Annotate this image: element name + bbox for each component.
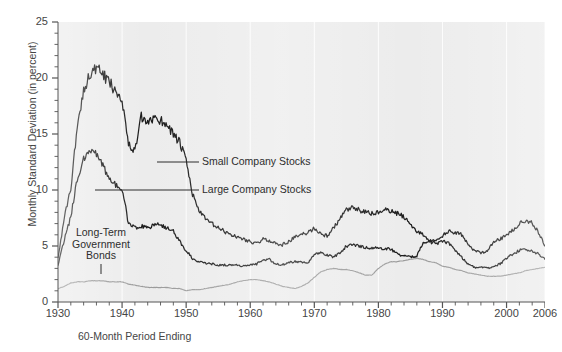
x-tick-label: 2006 [520,308,562,319]
x-tick-label: 1930 [33,308,83,319]
annotation-bonds-line-1: Long-Term [56,227,146,239]
y-tick-label: 10 [24,184,48,195]
y-tick-label: 20 [24,72,48,83]
x-tick-label: 1960 [225,308,275,319]
x-tick-label: 1980 [353,308,403,319]
x-tick-label: 1990 [417,308,467,319]
x-tick-label: 1940 [97,308,147,319]
y-tick-label: 0 [24,296,48,307]
annotation-long-term-government-bonds: Long-Term Government Bonds [56,227,146,262]
annotation-bonds-line-3: Bonds [56,250,146,262]
annotation-small-company-stocks: Small Company Stocks [202,156,311,168]
annotation-large-company-stocks: Large Company Stocks [202,184,311,196]
y-tick-label: 25 [24,16,48,27]
x-axis-title: 60-Month Period Ending [78,330,191,342]
x-tick-label: 1950 [161,308,211,319]
x-tick-label: 1970 [289,308,339,319]
y-tick-label: 15 [24,128,48,139]
y-tick-label: 5 [24,240,48,251]
